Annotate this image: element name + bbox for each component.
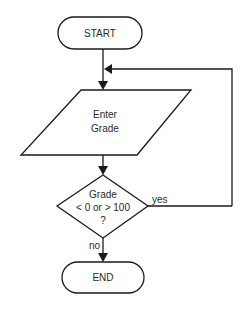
input-label-line2: Grade bbox=[91, 123, 119, 134]
flowchart: START Enter Grade Grade < 0 or > 100 ? y… bbox=[0, 0, 242, 309]
arrowhead-decision bbox=[98, 166, 108, 175]
arrowhead-end bbox=[98, 253, 108, 262]
decision-label-line2: < 0 or > 100 bbox=[76, 202, 130, 213]
arrowhead-loop bbox=[104, 64, 112, 74]
arrowhead-input bbox=[98, 81, 108, 90]
input-label-line1: Enter bbox=[93, 109, 118, 120]
decision-label-line1: Grade bbox=[89, 189, 117, 200]
edge-label-no: no bbox=[89, 240, 101, 251]
end-label: END bbox=[92, 272, 113, 283]
start-label: START bbox=[84, 28, 116, 39]
edge-label-yes: yes bbox=[152, 194, 168, 205]
decision-label-line3: ? bbox=[100, 215, 106, 226]
